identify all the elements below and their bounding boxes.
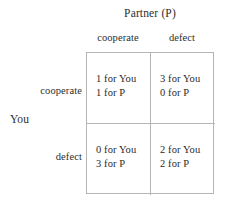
payoff-text: 0 for You 3 for P — [96, 143, 136, 171]
row-player-label: You — [10, 112, 29, 126]
row-header-cooperate: cooperate — [0, 83, 82, 98]
matrix-cell-cooperate-defect: 3 for You 0 for P — [151, 53, 215, 124]
payoff-you: 0 for You — [96, 143, 136, 157]
column-headers: cooperate defect — [86, 30, 214, 46]
payoff-you: 1 for You — [96, 72, 136, 86]
column-header-cooperate: cooperate — [86, 30, 150, 45]
matrix-cell-cooperate-cooperate: 1 for You 1 for P — [87, 53, 151, 124]
column-header-defect: defect — [150, 30, 214, 45]
payoff-text: 2 for You 2 for P — [160, 143, 200, 171]
payoff-text: 1 for You 1 for P — [96, 72, 136, 100]
matrix-grid: 1 for You 1 for P 3 for You 0 for P 0 fo… — [86, 52, 214, 194]
payoff-partner: 0 for P — [160, 86, 200, 100]
payoff-partner: 3 for P — [96, 157, 136, 171]
row-header-defect: defect — [0, 149, 82, 164]
payoff-text: 3 for You 0 for P — [160, 72, 200, 100]
matrix-cell-defect-defect: 2 for You 2 for P — [151, 124, 215, 195]
matrix-cell-defect-cooperate: 0 for You 3 for P — [87, 124, 151, 195]
payoff-matrix-figure: Partner (P) cooperate defect You coopera… — [0, 0, 232, 206]
payoff-you: 2 for You — [160, 143, 200, 157]
payoff-partner: 1 for P — [96, 86, 136, 100]
payoff-partner: 2 for P — [160, 157, 200, 171]
payoff-you: 3 for You — [160, 72, 200, 86]
column-player-label: Partner (P) — [86, 6, 214, 20]
